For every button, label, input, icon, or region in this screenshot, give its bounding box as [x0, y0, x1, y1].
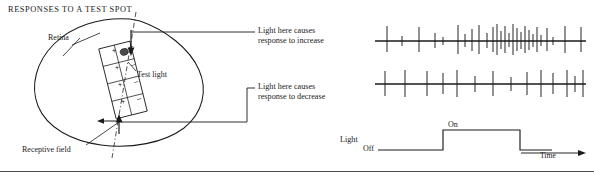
light-label: Light	[340, 135, 358, 145]
receptive-field-label: Receptive field	[22, 145, 71, 154]
receptive-field-axis-dashdot	[112, 12, 136, 158]
light-on-label: On	[448, 120, 458, 129]
connector-decrease	[121, 88, 255, 122]
spike-trace-increase	[375, 24, 586, 55]
callout-decrease-line1: Light here causes	[258, 82, 325, 92]
time-axis-label: Time	[540, 152, 556, 161]
callout-increase-line2: response to increase	[258, 36, 324, 46]
receptive-field-box	[99, 41, 147, 119]
test-light-label: Test light	[137, 70, 167, 79]
light-off-label: Off	[363, 144, 374, 153]
retina-label: Retina	[48, 33, 69, 42]
figure-bottom-rule	[0, 171, 594, 172]
callout-decrease-line2: response to decrease	[258, 92, 325, 102]
spike-trace-decrease	[375, 70, 586, 97]
callout-decrease: Light here causes response to decrease	[258, 82, 325, 101]
callout-increase: Light here causes response to increase	[258, 26, 324, 45]
stimulus-step-trace	[378, 130, 552, 150]
figure-title: RESPONSES TO A TEST SPOT	[8, 5, 132, 15]
decrease-site-arrow	[97, 114, 122, 134]
test-light-spot	[120, 48, 129, 56]
figure-responses-to-test-spot: RESPONSES TO A TEST SPOT Retina Test lig…	[0, 0, 594, 177]
callout-increase-line1: Light here causes	[258, 26, 324, 36]
